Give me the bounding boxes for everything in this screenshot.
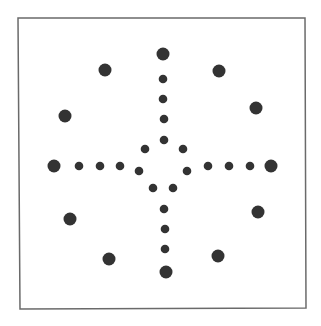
hole-corner-bottom-left-b[interactable]	[103, 253, 116, 266]
hole-right-arm-3[interactable]	[246, 162, 255, 171]
hole-bottom-end[interactable]	[160, 266, 173, 279]
game-board	[0, 0, 321, 326]
hole-left-arm-1[interactable]	[75, 162, 84, 171]
hole-top-end[interactable]	[157, 48, 170, 61]
hole-bottom-arm-2[interactable]	[161, 225, 170, 234]
hole-corner-top-left-b[interactable]	[59, 110, 72, 123]
hole-center-upper-left[interactable]	[141, 145, 150, 154]
hole-bottom-arm-1[interactable]	[160, 205, 169, 214]
hole-top-arm-1[interactable]	[159, 75, 168, 84]
hole-left-end[interactable]	[48, 160, 61, 173]
hole-right-arm-2[interactable]	[225, 162, 234, 171]
hole-right-end[interactable]	[265, 160, 278, 173]
hole-left-arm-2[interactable]	[96, 162, 105, 171]
hole-corner-bottom-left-a[interactable]	[64, 213, 77, 226]
hole-right-arm-1[interactable]	[204, 162, 213, 171]
hole-center-upper-right[interactable]	[179, 145, 188, 154]
hole-center-lower-left[interactable]	[149, 184, 158, 193]
hole-corner-bottom-right-b[interactable]	[212, 250, 225, 263]
hole-corner-top-right-a[interactable]	[213, 65, 226, 78]
hole-center-top[interactable]	[160, 136, 169, 145]
hole-left-arm-3[interactable]	[116, 162, 125, 171]
hole-top-arm-2[interactable]	[159, 95, 168, 104]
hole-corner-top-left-a[interactable]	[99, 64, 112, 77]
hole-center-left[interactable]	[135, 167, 144, 176]
hole-top-arm-3[interactable]	[160, 115, 169, 124]
hole-center-lower-right[interactable]	[169, 184, 178, 193]
hole-corner-top-right-b[interactable]	[250, 102, 263, 115]
hole-corner-bottom-right-a[interactable]	[252, 206, 265, 219]
hole-center-right[interactable]	[183, 167, 192, 176]
hole-bottom-arm-3[interactable]	[161, 245, 170, 254]
